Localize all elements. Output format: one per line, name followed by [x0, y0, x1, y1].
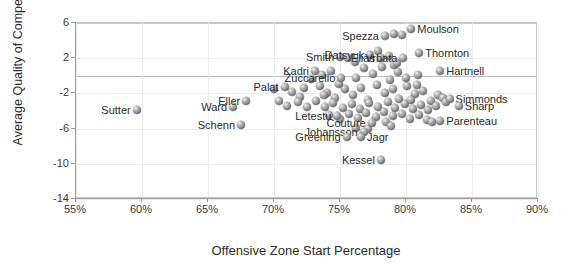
- data-point-label: Kessel: [342, 155, 375, 166]
- data-point: [349, 91, 357, 99]
- data-point: [380, 108, 388, 116]
- data-point-label: Jagr: [367, 132, 388, 143]
- x-axis-tick-label: 70%: [262, 203, 284, 215]
- data-point-label: Eller: [218, 96, 240, 107]
- data-point: [402, 74, 410, 82]
- gridline-horizontal: [76, 164, 536, 165]
- scatter-chart: Average Quality of Competition 62-2-6-10…: [0, 0, 561, 269]
- data-point-label: Schenn: [198, 120, 235, 131]
- x-axis-tick: [207, 198, 208, 202]
- y-axis-tick-labels: 62-2-6-10-14: [36, 22, 69, 198]
- x-axis-tick: [75, 198, 76, 202]
- data-point: [288, 88, 296, 96]
- gridline-vertical: [142, 23, 143, 197]
- y-axis-tick: [71, 57, 75, 58]
- gridline-vertical: [406, 23, 407, 197]
- x-axis-tick-label: 90%: [526, 203, 548, 215]
- data-point: [320, 91, 328, 99]
- data-point-labeled: [281, 83, 289, 91]
- data-point-labeled: [343, 133, 351, 141]
- x-axis-tick: [273, 198, 274, 202]
- x-axis-line: [75, 198, 538, 199]
- data-point-label: Sutter: [101, 105, 130, 116]
- data-point: [384, 98, 392, 106]
- x-axis-tick: [471, 198, 472, 202]
- data-point: [312, 97, 320, 105]
- data-point: [390, 30, 398, 38]
- x-axis-tick-label: 75%: [328, 203, 350, 215]
- x-axis-tick-label: 60%: [130, 203, 152, 215]
- data-point-label: Moulson: [417, 24, 459, 35]
- data-point: [424, 106, 432, 114]
- data-point: [362, 109, 370, 117]
- data-point-label: Spezza: [342, 31, 379, 42]
- data-point: [316, 82, 324, 90]
- y-axis-tick-label: 2: [63, 51, 69, 63]
- data-point: [360, 64, 368, 72]
- data-point: [352, 74, 360, 82]
- data-point-label: Palat: [253, 82, 278, 93]
- data-point: [414, 71, 422, 79]
- y-axis-tick: [71, 128, 75, 129]
- y-axis-tick-label: -2: [59, 86, 69, 98]
- x-axis-tick-label: 80%: [394, 203, 416, 215]
- y-axis-tick: [71, 22, 75, 23]
- x-axis-tick-label: 85%: [460, 203, 482, 215]
- y-axis-tick: [71, 163, 75, 164]
- data-point-label: Vrbata: [365, 53, 397, 64]
- data-point-labeled: [455, 102, 463, 110]
- y-axis-line: [75, 22, 76, 199]
- data-point-labeled: [415, 49, 423, 57]
- data-point: [406, 115, 414, 123]
- data-point: [373, 81, 381, 89]
- x-axis-tick: [537, 198, 538, 202]
- data-point-labeled: [436, 117, 444, 125]
- data-point-labeled: [133, 106, 141, 114]
- x-axis-tick-label: 55%: [64, 203, 86, 215]
- data-point: [329, 99, 337, 107]
- x-axis-tick: [141, 198, 142, 202]
- data-point: [369, 70, 377, 78]
- data-point-label: Parenteau: [446, 115, 497, 126]
- data-point: [417, 101, 425, 109]
- y-axis-tick: [71, 92, 75, 93]
- data-point-labeled: [357, 133, 365, 141]
- plot-area: SutterWardEllerSchennPalatKadriZuccarell…: [75, 22, 537, 198]
- y-axis-tick-label: -10: [53, 157, 69, 169]
- y-axis-tick-label: -6: [59, 122, 69, 134]
- data-point: [419, 87, 427, 95]
- data-point-labeled: [381, 32, 389, 40]
- data-point: [407, 96, 415, 104]
- data-point: [398, 110, 406, 118]
- data-point-labeled: [368, 119, 376, 127]
- data-point: [432, 102, 440, 110]
- data-point: [403, 82, 411, 90]
- x-axis-tick: [405, 198, 406, 202]
- data-point-label: Hartnell: [446, 66, 484, 77]
- data-point: [357, 84, 365, 92]
- gridline-horizontal: [76, 23, 536, 24]
- data-point: [428, 118, 436, 126]
- gridline-vertical: [76, 23, 77, 197]
- data-point: [300, 84, 308, 92]
- x-axis-tick: [339, 198, 340, 202]
- data-point: [365, 99, 373, 107]
- data-point: [386, 76, 394, 84]
- y-axis-tick-label: 6: [63, 16, 69, 28]
- data-point-labeled: [446, 95, 454, 103]
- data-point: [294, 98, 302, 106]
- data-point: [283, 102, 291, 110]
- data-point-label: Thornton: [425, 47, 469, 58]
- x-axis-tick-labels: 55%60%65%70%75%80%85%90%: [75, 203, 538, 219]
- y-axis-title: Average Quality of Competition: [11, 0, 25, 159]
- data-point-labeled: [436, 67, 444, 75]
- data-point: [398, 31, 406, 39]
- data-point: [378, 63, 386, 71]
- data-point-label: Greening: [295, 132, 340, 143]
- data-point-label: Zuccarello: [285, 72, 336, 83]
- data-point: [341, 85, 349, 93]
- gridline-horizontal: [76, 199, 536, 200]
- data-point-labeled: [337, 74, 345, 82]
- data-point: [415, 111, 423, 119]
- data-point: [389, 85, 397, 93]
